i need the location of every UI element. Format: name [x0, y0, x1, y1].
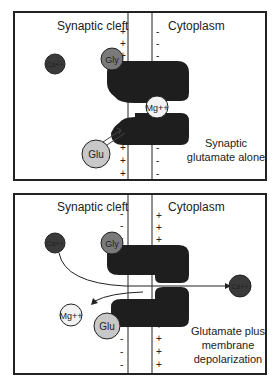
- svg-text:-: -: [120, 346, 123, 357]
- panel-synaptic-glutamate-alone: Synaptic cleft Cytoplasm + + + - - - + +…: [13, 11, 267, 181]
- svg-text:-: -: [156, 38, 159, 49]
- svg-text:Ca++: Ca++: [46, 240, 63, 247]
- svg-text:+: +: [156, 346, 162, 357]
- diagram-bottom: Synaptic cleft Cytoplasm - - - + + + - -…: [15, 195, 265, 373]
- caption-line-3: depolarization: [194, 353, 263, 365]
- svg-text:Gly: Gly: [105, 55, 119, 65]
- svg-text:Glu: Glu: [99, 321, 115, 332]
- svg-text:+: +: [156, 234, 162, 245]
- svg-text:-: -: [156, 50, 159, 61]
- caption-line-1: Glutamate plus: [191, 325, 265, 337]
- svg-text:Ca++: Ca++: [231, 283, 248, 290]
- receptor-lower-subunit: [111, 113, 189, 145]
- membrane-charges-bottom: - - - + + + - - - - + + + +: [120, 208, 162, 370]
- svg-text:+: +: [156, 333, 162, 344]
- svg-text:Glu: Glu: [88, 149, 104, 160]
- caption-line-1: Synaptic: [205, 137, 248, 149]
- svg-text:Ca++: Ca++: [46, 61, 63, 68]
- svg-text:Mg++: Mg++: [59, 311, 82, 321]
- label-synaptic-cleft: Synaptic cleft: [57, 200, 129, 214]
- svg-text:+: +: [156, 210, 162, 221]
- svg-text:+: +: [120, 168, 126, 179]
- svg-text:-: -: [156, 26, 159, 37]
- caption-line-2: glutamate alone: [187, 151, 265, 163]
- label-cytoplasm: Cytoplasm: [168, 200, 225, 214]
- svg-text:-: -: [120, 359, 123, 370]
- svg-text:-: -: [156, 155, 159, 166]
- svg-text:+: +: [120, 26, 126, 37]
- svg-text:Gly: Gly: [105, 239, 119, 249]
- svg-text:-: -: [156, 168, 159, 179]
- label-synaptic-cleft: Synaptic cleft: [57, 19, 129, 33]
- svg-text:-: -: [120, 333, 123, 344]
- svg-text:+: +: [120, 38, 126, 49]
- label-cytoplasm: Cytoplasm: [168, 19, 225, 33]
- svg-text:-: -: [120, 220, 123, 231]
- svg-text:-: -: [120, 208, 123, 219]
- svg-text:+: +: [156, 359, 162, 370]
- svg-text:+: +: [156, 222, 162, 233]
- diagram-top: Synaptic cleft Cytoplasm + + + - - - + +…: [15, 13, 265, 179]
- svg-text:Mg++: Mg++: [145, 103, 168, 113]
- svg-text:+: +: [120, 155, 126, 166]
- caption-line-2: membrane: [202, 339, 255, 351]
- panel-glutamate-plus-depolarization: Synaptic cleft Cytoplasm - - - + + + - -…: [13, 193, 267, 375]
